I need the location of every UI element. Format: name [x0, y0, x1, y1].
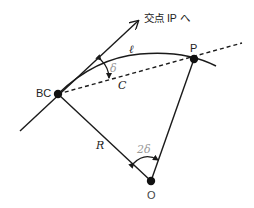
- radius-bc-o: [58, 94, 151, 181]
- p-label: P: [190, 43, 197, 54]
- point-p: [190, 55, 198, 63]
- deflection-angle-label: δ: [110, 63, 117, 74]
- chord-line: [58, 43, 242, 94]
- bc-label: BC: [36, 88, 51, 99]
- radius-label: R: [96, 140, 104, 151]
- central-angle-marker: [134, 157, 158, 163]
- arc-length-label: ℓ: [129, 44, 134, 55]
- o-label: O: [147, 190, 156, 201]
- point-o: [147, 177, 155, 185]
- diagram-canvas: [0, 0, 254, 208]
- radius-p-o: [151, 59, 194, 181]
- chord-label: C: [118, 80, 126, 91]
- point-bc: [54, 90, 62, 98]
- central-angle-label: 2δ: [137, 144, 151, 155]
- arrow-label-ip: 交点 IP へ: [144, 13, 190, 24]
